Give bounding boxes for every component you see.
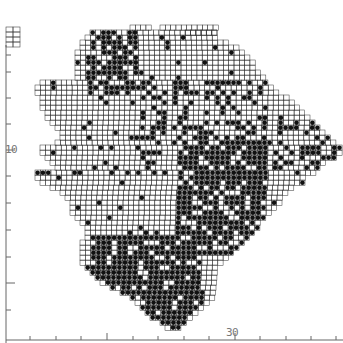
left-axis-label: 10	[5, 143, 17, 156]
inset-box	[6, 27, 20, 47]
bottom-axis-label: 30	[226, 326, 238, 339]
distribution-map	[0, 0, 343, 343]
